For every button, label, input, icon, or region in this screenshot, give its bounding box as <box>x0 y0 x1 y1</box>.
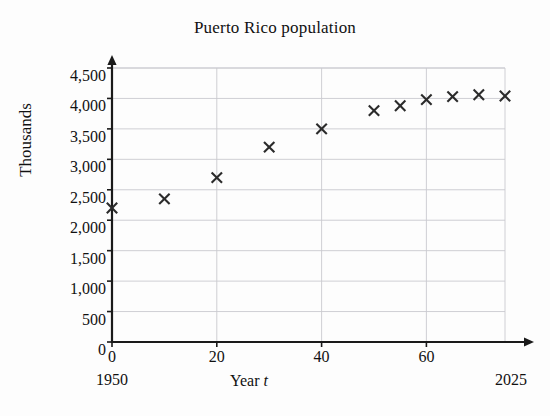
x-axis-tick-label: 0 <box>108 348 116 366</box>
y-axis-tick-label-text: 4,000 <box>44 98 106 114</box>
y-axis-tick-label-text: 3,000 <box>44 159 106 175</box>
x-axis-arrowhead <box>524 337 534 346</box>
x-axis-tick-label: 60 <box>418 348 434 366</box>
y-axis-tick-label-text: 500 <box>44 312 106 328</box>
x-axis-start-year-label: 1950 <box>96 371 128 389</box>
x-axis-end-year-label: 2025 <box>495 371 527 389</box>
x-axis-label: Year t <box>230 372 268 390</box>
y-axis-tick-label-text: 2,500 <box>44 190 106 206</box>
chart-figure: Puerto Rico population Thousands 05001,0… <box>0 0 550 416</box>
x-axis-tick-label: 20 <box>209 348 225 366</box>
data-point-marker <box>264 142 274 152</box>
y-axis-tick-label-text: 4,500 <box>44 68 106 84</box>
y-axis-tick-label-text: 1,500 <box>44 251 106 267</box>
y-axis-tick-label-text: 0 <box>44 342 106 358</box>
data-point-marker <box>159 194 169 204</box>
x-axis-tick-label: 40 <box>314 348 330 366</box>
x-axis-label-text: Year <box>230 372 263 389</box>
y-axis-tick-label-text: 1,000 <box>44 281 106 297</box>
data-point-marker <box>447 91 457 101</box>
y-axis-tick-label-text: 2,000 <box>44 220 106 236</box>
data-point-marker <box>369 105 379 115</box>
x-axis-label-variable: t <box>263 372 267 389</box>
data-point-marker <box>395 101 405 111</box>
y-axis-arrowhead <box>107 55 116 65</box>
y-axis-tick-label-text: 3,500 <box>44 129 106 145</box>
